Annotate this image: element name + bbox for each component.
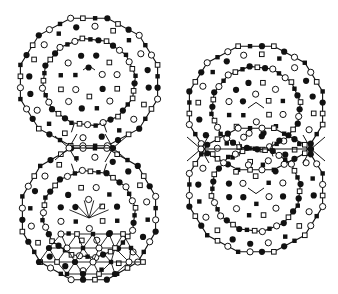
filled-square-node: [281, 99, 285, 103]
open-circle-node: [240, 180, 246, 186]
filled-circle-node: [42, 63, 48, 69]
filled-square-node: [132, 213, 136, 217]
open-circle-node: [253, 91, 259, 97]
open-square-node: [75, 232, 80, 237]
filled-square-node: [28, 206, 32, 210]
open-square-node: [20, 229, 25, 234]
open-square-node: [266, 98, 271, 103]
filled-square-node: [107, 192, 111, 196]
open-circle-node: [214, 124, 220, 130]
open-circle-node: [131, 116, 137, 122]
open-square-node: [314, 80, 319, 85]
open-circle-node: [246, 130, 252, 136]
open-square-node: [79, 185, 84, 190]
filled-circle-node: [276, 137, 282, 143]
open-circle-node: [241, 52, 247, 58]
filled-circle-node: [131, 80, 137, 86]
open-square-node: [255, 65, 260, 70]
filled-circle-node: [209, 104, 215, 110]
filled-circle-node: [19, 217, 25, 223]
filled-circle-node: [295, 121, 301, 127]
filled-square-node: [38, 164, 42, 168]
open-square-node: [131, 89, 136, 94]
open-square-node: [234, 170, 239, 175]
open-square-node: [53, 183, 58, 188]
open-circle-node: [245, 162, 251, 168]
filled-circle-node: [112, 271, 118, 277]
open-square-node: [104, 39, 109, 44]
open-square-node: [212, 172, 217, 177]
filled-circle-node: [153, 228, 159, 234]
open-square-node: [48, 57, 53, 62]
open-circle-node: [46, 27, 52, 33]
filled-square-node: [73, 73, 77, 77]
open-circle-node: [225, 72, 231, 78]
open-circle-node: [153, 193, 159, 199]
filled-circle-node: [272, 168, 278, 174]
filled-square-node: [65, 42, 69, 46]
filled-circle-node: [297, 106, 303, 112]
filled-circle-node: [216, 165, 222, 171]
right-top-lobe: [186, 43, 325, 173]
filled-circle-node: [146, 84, 152, 90]
filled-square-node: [32, 250, 36, 254]
open-square-node: [55, 260, 60, 265]
filled-circle-node: [116, 179, 122, 185]
open-square-node: [261, 80, 266, 85]
open-square-node: [320, 193, 325, 198]
filled-square-node: [211, 70, 215, 74]
filled-square-node: [74, 219, 78, 223]
open-square-node: [193, 162, 198, 167]
filled-circle-node: [120, 107, 126, 113]
filled-square-node: [310, 176, 314, 180]
open-circle-node: [270, 66, 276, 72]
fan-edge: [89, 210, 109, 218]
filled-square-node: [129, 246, 133, 250]
open-square-node: [130, 66, 135, 71]
filled-circle-node: [210, 178, 216, 184]
filled-square-node: [57, 31, 61, 35]
filled-circle-node: [80, 271, 86, 277]
filled-square-node: [93, 16, 97, 20]
open-square-node: [141, 174, 146, 179]
filled-square-node: [127, 192, 131, 196]
open-square-node: [236, 44, 241, 49]
filled-circle-node: [290, 208, 296, 214]
filled-square-node: [227, 113, 231, 117]
open-square-node: [231, 222, 236, 227]
filled-circle-node: [104, 15, 110, 21]
filled-square-node: [225, 141, 229, 145]
filled-circle-node: [147, 183, 153, 189]
filled-circle-node: [72, 259, 78, 265]
open-circle-node: [96, 245, 102, 251]
filled-square-node: [296, 203, 300, 207]
open-circle-node: [79, 167, 85, 173]
filled-square-node: [66, 231, 70, 235]
filled-square-node: [58, 22, 62, 26]
open-square-node: [87, 94, 92, 99]
open-square-node: [259, 52, 264, 57]
filled-circle-node: [107, 116, 113, 122]
filled-circle-node: [47, 157, 53, 163]
filled-circle-node: [100, 86, 106, 92]
filled-circle-node: [240, 98, 246, 104]
open-square-node: [240, 149, 245, 154]
open-circle-node: [84, 122, 90, 128]
filled-circle-node: [30, 116, 36, 122]
open-circle-node: [235, 125, 241, 131]
open-circle-node: [186, 121, 192, 127]
filled-circle-node: [247, 241, 253, 247]
open-square-node: [41, 78, 46, 83]
filled-circle-node: [95, 37, 101, 43]
filled-square-node: [283, 234, 287, 238]
filled-circle-node: [311, 192, 317, 198]
open-square-node: [215, 156, 220, 161]
caret-mark: [248, 102, 264, 108]
open-circle-node: [259, 167, 265, 173]
filled-square-node: [197, 199, 201, 203]
open-circle-node: [65, 60, 71, 66]
open-circle-node: [203, 214, 209, 220]
filled-square-node: [266, 181, 270, 185]
open-circle-node: [266, 194, 272, 200]
filled-circle-node: [65, 192, 71, 198]
